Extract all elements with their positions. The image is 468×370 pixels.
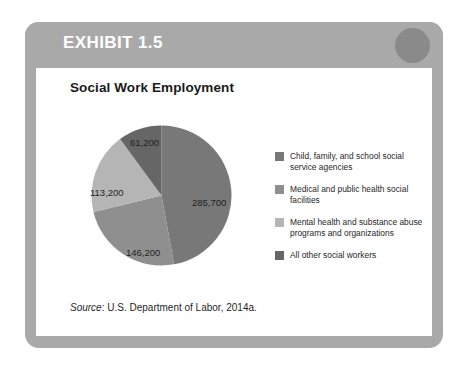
legend-item: Medical and public health socialfaciliti… xyxy=(275,184,425,206)
legend-color-swatch-icon xyxy=(275,218,284,227)
pie-slice-value-label: 61,200 xyxy=(130,137,159,148)
exhibit-frame: EXHIBIT 1.5 Social Work Employment 285,7… xyxy=(25,22,443,348)
exhibit-header-band: EXHIBIT 1.5 xyxy=(25,22,443,68)
exhibit-content-card: Social Work Employment 285,700146,200113… xyxy=(36,68,432,336)
pie-slice xyxy=(162,126,232,265)
pie-slice-value-label: 285,700 xyxy=(192,197,226,208)
exhibit-number-title: EXHIBIT 1.5 xyxy=(63,33,163,53)
source-separator: : xyxy=(102,302,105,313)
legend-item: Child, family, and school socialservice … xyxy=(275,151,425,173)
pie-chart: 285,700146,200113,20061,200 xyxy=(91,125,232,266)
legend-item-label: Mental health and substance abuseprogram… xyxy=(290,217,422,239)
pie-slice-value-label: 113,200 xyxy=(90,187,124,198)
source-text: U.S. Department of Labor, 2014a. xyxy=(107,302,257,313)
legend-color-swatch-icon xyxy=(275,251,284,260)
header-decoration-circle-icon xyxy=(395,28,430,63)
chart-title: Social Work Employment xyxy=(70,80,234,95)
legend-item-label: All other social workers xyxy=(290,250,376,261)
legend-item: Mental health and substance abuseprogram… xyxy=(275,217,425,239)
legend-color-swatch-icon xyxy=(275,152,284,161)
legend-item: All other social workers xyxy=(275,250,425,261)
chart-legend: Child, family, and school socialservice … xyxy=(275,151,425,272)
legend-item-label: Medical and public health socialfaciliti… xyxy=(290,184,408,206)
pie-slice-value-label: 146,200 xyxy=(126,247,160,258)
source-note: Source: U.S. Department of Labor, 2014a. xyxy=(70,302,257,313)
legend-item-label: Child, family, and school socialservice … xyxy=(290,151,404,173)
source-prefix: Source xyxy=(70,302,102,313)
legend-color-swatch-icon xyxy=(275,185,284,194)
